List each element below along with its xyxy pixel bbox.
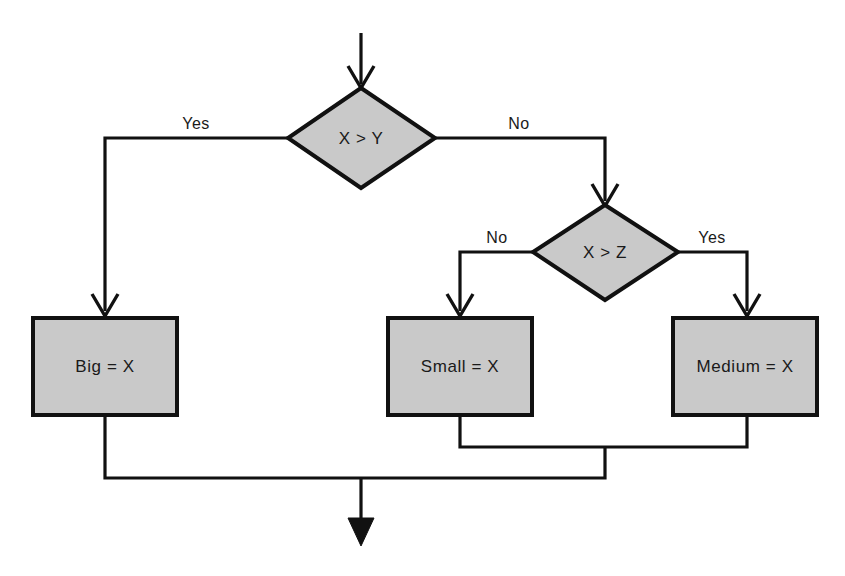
edge-big-merge-line xyxy=(105,415,361,478)
branch-label-xz-no: No xyxy=(486,229,507,246)
edge-xy-yes xyxy=(92,138,288,316)
edge-xy-no-line xyxy=(435,138,605,201)
node-decision-x-gt-z-label: X > Z xyxy=(583,243,627,262)
edge-exit xyxy=(348,478,374,546)
node-process-small-label: Small = X xyxy=(421,357,500,376)
edge-medium-merge xyxy=(605,415,747,447)
branch-label-xz-yes: Yes xyxy=(698,229,725,246)
branch-label-xy-yes: Yes xyxy=(182,115,209,132)
node-process-small[interactable]: Small = X xyxy=(388,318,532,415)
edge-medium-merge-line xyxy=(605,415,747,447)
edge-small-merge-line xyxy=(460,415,605,447)
edge-xz-yes-line xyxy=(678,252,747,311)
node-process-big-label: Big = X xyxy=(75,357,134,376)
node-process-medium[interactable]: Medium = X xyxy=(673,318,817,415)
node-decision-x-gt-y[interactable]: X > Y xyxy=(288,88,435,188)
node-decision-x-gt-z[interactable]: X > Z xyxy=(533,205,678,300)
flowchart-diagram: X > Y X > Z Big = X Small = X Medium = X… xyxy=(0,0,845,576)
branch-label-xy-no: No xyxy=(508,115,529,132)
edge-xz-no xyxy=(447,252,533,316)
edge-entry xyxy=(348,33,374,88)
edge-lower-merge-line xyxy=(361,447,605,478)
edge-exit-arrowhead xyxy=(348,518,374,546)
node-process-medium-label: Medium = X xyxy=(696,357,793,376)
edge-xy-no xyxy=(435,138,618,206)
edge-xy-yes-line xyxy=(105,138,288,311)
edge-lower-merge xyxy=(361,447,605,478)
edge-xz-no-line xyxy=(460,252,533,311)
edge-small-merge xyxy=(460,415,605,447)
node-decision-x-gt-y-label: X > Y xyxy=(339,129,384,148)
flowchart-canvas: X > Y X > Z Big = X Small = X Medium = X… xyxy=(0,0,845,576)
node-process-big[interactable]: Big = X xyxy=(33,318,177,415)
edge-xz-yes xyxy=(678,252,760,316)
edge-big-merge xyxy=(105,415,361,478)
